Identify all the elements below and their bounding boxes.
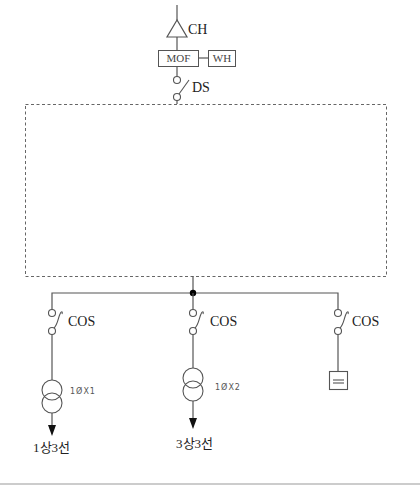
cos-label-2: COS: [210, 315, 237, 329]
single-line-diagram: [0, 0, 420, 495]
transformer-label-1: 1ØX1: [70, 388, 96, 396]
cos-switch-icon: [335, 310, 349, 335]
arrow-down-icon: [189, 418, 197, 429]
capacitor-box-icon: [330, 372, 348, 390]
transformer-icon: [42, 380, 62, 413]
cos-switch-icon: [190, 310, 204, 335]
output-label-2: 3상3선: [176, 437, 213, 450]
ch-label: CH: [188, 23, 207, 37]
mof-box: MOF: [158, 50, 199, 67]
cos-switch-icon: [49, 310, 63, 335]
cos-label-1: COS: [68, 315, 95, 329]
arrow-down-icon: [48, 425, 56, 436]
ds-label: DS: [192, 81, 210, 95]
bus-bar: [52, 293, 338, 310]
wh-box: WH: [208, 50, 236, 67]
transformer-icon: [183, 368, 203, 401]
output-label-1: 1상3선: [33, 441, 70, 454]
dashed-equipment-box: [26, 105, 387, 277]
ds-switch-icon: [174, 77, 181, 84]
cos-label-3: COS: [352, 315, 379, 329]
transformer-label-2: 1ØX2: [215, 384, 241, 392]
ch-triangle-icon: [167, 20, 187, 37]
